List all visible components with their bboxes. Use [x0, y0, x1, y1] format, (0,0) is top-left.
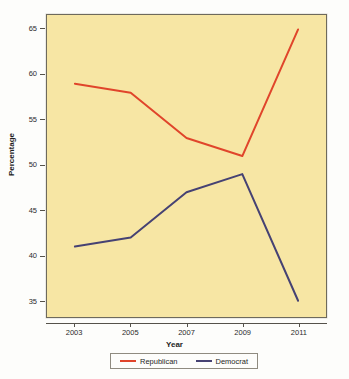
- y-tick-mark: [40, 74, 45, 75]
- series-line-republican: [75, 29, 298, 156]
- y-tick-mark: [40, 28, 45, 29]
- y-tick-label: 50: [29, 160, 37, 170]
- x-tick-mark: [187, 323, 188, 327]
- y-tick-mark: [40, 256, 45, 257]
- y-tick: 35: [0, 297, 46, 307]
- y-tick: 45: [0, 206, 46, 216]
- legend-label: Democrat: [216, 357, 249, 366]
- plot-lines: [47, 15, 326, 317]
- y-tick-mark: [40, 301, 45, 302]
- series-line-democrat: [75, 174, 298, 301]
- legend-swatch-icon: [120, 360, 136, 362]
- y-tick: 55: [0, 115, 46, 125]
- x-tick-label: 2009: [234, 328, 251, 337]
- y-tick-mark: [40, 210, 45, 211]
- y-tick-mark: [40, 165, 45, 166]
- y-tick-mark: [40, 119, 45, 120]
- x-tick-label: 2007: [178, 328, 195, 337]
- legend-label: Republican: [140, 357, 178, 366]
- plot-area: [46, 14, 327, 318]
- y-tick-label: 55: [29, 115, 37, 125]
- x-axis-title: Year: [0, 340, 349, 349]
- y-tick: 50: [0, 160, 46, 170]
- x-tick-label: 2005: [122, 328, 139, 337]
- y-axis-title: Percentage: [7, 120, 16, 190]
- y-tick-label: 60: [29, 69, 37, 79]
- y-tick-label: 45: [29, 206, 37, 216]
- x-tick-mark: [243, 323, 244, 327]
- y-tick: 40: [0, 251, 46, 261]
- y-tick: 60: [0, 69, 46, 79]
- legend-entry-democrat[interactable]: Democrat: [187, 357, 258, 366]
- x-tick-mark: [74, 323, 75, 327]
- y-tick-label: 35: [29, 297, 37, 307]
- x-tick-mark: [299, 323, 300, 327]
- legend-swatch-icon: [196, 360, 212, 362]
- y-tick-label: 40: [29, 251, 37, 261]
- x-tick-mark: [130, 323, 131, 327]
- legend-entry-republican[interactable]: Republican: [111, 357, 187, 366]
- chart-legend: RepublicanDemocrat: [110, 353, 258, 369]
- chart-figure: Percentage 35404550556065 20032005200720…: [0, 0, 349, 379]
- x-tick-label: 2011: [291, 328, 307, 337]
- y-tick: 65: [0, 24, 46, 34]
- x-tick-label: 2003: [66, 328, 83, 337]
- y-tick-label: 65: [29, 24, 37, 34]
